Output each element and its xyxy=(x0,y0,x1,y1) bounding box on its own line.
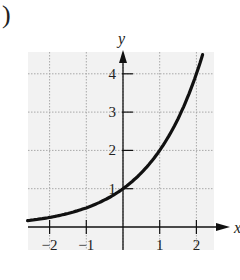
y-tick-label: 4 xyxy=(109,66,117,82)
x-axis-label: x xyxy=(233,219,240,236)
y-tick-label: 2 xyxy=(109,142,117,158)
x-tick-label: −1 xyxy=(78,237,94,253)
chart: −2−1121234yx xyxy=(0,0,240,280)
x-tick-label: 2 xyxy=(193,237,201,253)
y-tick-label: 3 xyxy=(109,104,117,120)
x-tick-label: −2 xyxy=(42,237,58,253)
x-tick-label: 1 xyxy=(156,237,164,253)
plot-background xyxy=(28,52,214,250)
x-axis-arrow-icon xyxy=(216,223,230,231)
y-axis-label: y xyxy=(116,30,126,48)
